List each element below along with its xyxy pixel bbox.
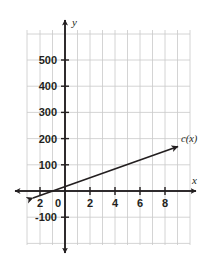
y-tick-label-100: 100: [39, 159, 57, 171]
coordinate-plane: 500 400 300 200 100 -100 2 0 2 4 6 8 y x…: [0, 0, 213, 259]
x-tick-label-neg2: 2: [37, 197, 43, 209]
y-tick-label-200: 200: [39, 133, 57, 145]
x-tick-label-0: 0: [55, 197, 61, 209]
y-tick-label-500: 500: [39, 54, 57, 66]
y-tick-label-300: 300: [39, 106, 57, 118]
x-tick-label-6: 6: [137, 197, 143, 209]
x-axis-label: x: [191, 174, 197, 186]
x-tick-label-8: 8: [162, 197, 168, 209]
y-axis-label: y: [71, 16, 77, 28]
x-tick-label-2: 2: [87, 197, 93, 209]
series-label-c: c(x): [181, 133, 198, 145]
y-tick-label-400: 400: [39, 80, 57, 92]
y-tick-label-neg100: -100: [35, 211, 57, 223]
graph-figure: 500 400 300 200 100 -100 2 0 2 4 6 8 y x…: [0, 0, 213, 259]
chart-background: [0, 0, 213, 259]
x-tick-label-4: 4: [112, 197, 119, 209]
